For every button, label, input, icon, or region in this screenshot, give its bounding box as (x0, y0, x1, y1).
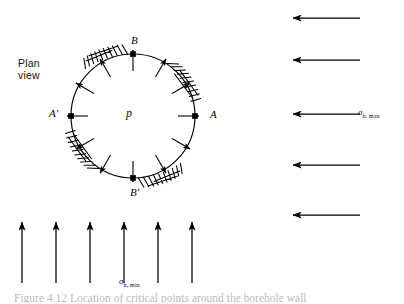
radial-arrow-120deg (100, 59, 111, 77)
figure-caption: Figure 4.12 Location of critical points … (14, 292, 394, 303)
point-label-b-prime: B' (130, 186, 139, 198)
radial-arrow-150deg (76, 83, 94, 94)
point-label-a-prime: A' (49, 107, 58, 119)
borehole-circle (71, 54, 195, 178)
sigma-h-max-label: σh, max (358, 107, 380, 119)
radial-arrow-300deg (156, 155, 167, 173)
breakout-zone-near-Ap (65, 131, 99, 169)
radial-arrow-60deg (156, 59, 167, 77)
point-dot-A (192, 113, 198, 119)
figure-vector-canvas (0, 0, 404, 304)
point-label-a: A (210, 108, 217, 120)
sigma-h-max-arrow-group (293, 18, 360, 215)
breakout-zone-near-A (167, 63, 201, 101)
point-dot-B (130, 51, 136, 57)
plan-view-label: Plan view (18, 58, 40, 82)
internal-pressure-label: p (126, 107, 132, 120)
point-label-b: B (131, 34, 138, 46)
sigma-h-max-subscript: h, max (362, 113, 380, 119)
breakout-zone-near-Bp (138, 163, 182, 187)
breakout-zone-near-B (84, 45, 128, 69)
sigma-h-min-arrow-group (22, 222, 192, 283)
radial-arrow-330deg (172, 139, 190, 150)
sigma-h-min-subscript: h, min (123, 282, 140, 288)
sigma-h-min-label: σh, min (119, 276, 140, 288)
radial-arrow-240deg (100, 155, 111, 173)
point-dot-Ap (68, 113, 74, 119)
point-dot-Bp (130, 175, 136, 181)
borehole-stress-figure: Plan view p A B A' B' σh, max σh, min Fi… (0, 0, 404, 304)
